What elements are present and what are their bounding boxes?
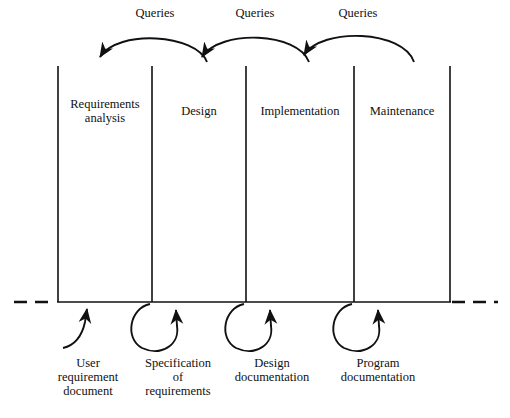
phase-label-maintenance: Maintenance (354, 104, 450, 118)
phase-label-requirements-analysis: Requirements analysis (58, 97, 152, 125)
query-arc-2-icon (202, 38, 309, 62)
query-arc-3-icon (304, 36, 414, 62)
query-arc-1-icon (100, 38, 207, 62)
phase-label-implementation: Implementation (246, 104, 354, 118)
doc-loop-3-icon (225, 304, 271, 351)
doc-loop-1-icon (63, 309, 87, 348)
document-label-program-documentation: Program documentation (318, 356, 438, 384)
phase-label-design: Design (152, 104, 246, 118)
doc-loop-4-icon (333, 304, 379, 351)
lifecycle-diagram: Queries Queries Queries Requirements ana… (0, 0, 510, 418)
document-loop-group (63, 304, 379, 351)
query-arc-group (100, 36, 414, 62)
queries-label-1: Queries (117, 6, 193, 20)
queries-label-3: Queries (320, 6, 396, 20)
doc-loop-2-icon (131, 304, 177, 351)
document-label-design-documentation: Design documentation (212, 356, 332, 384)
document-label-user-requirement-document: User requirement document (40, 356, 136, 398)
queries-label-2: Queries (217, 6, 293, 20)
